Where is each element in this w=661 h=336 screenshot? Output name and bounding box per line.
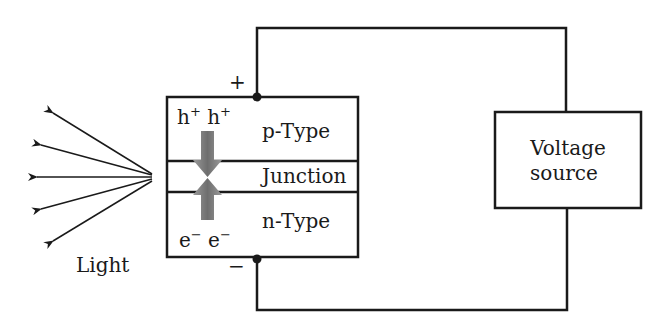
hole-arrow-down-icon <box>193 131 222 177</box>
minus-label: − <box>228 254 245 278</box>
light-label: Light <box>76 253 129 277</box>
voltage-source-box <box>495 112 641 208</box>
light-rays <box>37 113 152 241</box>
p-type-label: p-Type <box>262 119 330 143</box>
plus-label: + <box>229 70 246 94</box>
electron-arrow-up-icon <box>193 178 222 220</box>
junction-label: Junction <box>260 164 346 188</box>
n-type-label: n-Type <box>262 209 330 233</box>
electrons-label: e− e− <box>179 227 231 252</box>
voltage-source-label-line1: Voltage <box>529 136 606 160</box>
voltage-source-label-line2: source <box>530 161 598 185</box>
holes-label: h+ h+ <box>177 104 231 129</box>
led-circuit-diagram: + − h+ h+ e− e− p-Type Junction n-Type L… <box>0 0 661 336</box>
